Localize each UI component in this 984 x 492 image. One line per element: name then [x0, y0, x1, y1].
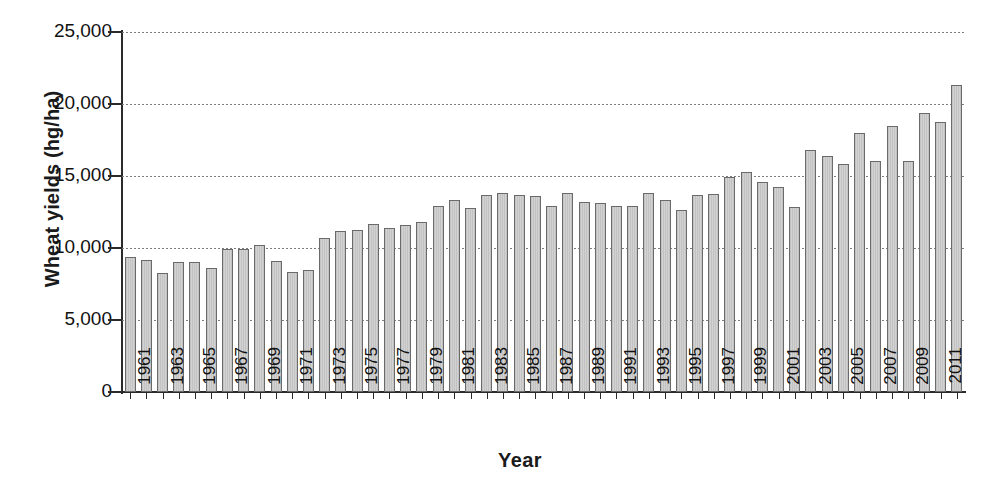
x-axis-tick-label: 1973	[332, 347, 347, 403]
y-axis-tick-label: 5,000	[64, 308, 112, 330]
bar	[870, 161, 881, 392]
x-axis-tick-label: 1999	[753, 347, 768, 403]
x-axis-tick-label: 1975	[364, 347, 379, 403]
bar	[157, 273, 168, 392]
x-axis-tick-label: 1963	[170, 347, 185, 403]
y-axis-tick-label: 20,000	[54, 92, 112, 114]
x-axis-tick-label: 2009	[915, 347, 930, 403]
x-axis-tick-label: 1991	[623, 347, 638, 403]
x-axis-tick-label: 1997	[721, 347, 736, 403]
bar	[189, 262, 200, 392]
x-axis-tick-label: 1989	[591, 347, 606, 403]
bar	[416, 222, 427, 392]
x-axis-tick-label: 1969	[267, 347, 282, 403]
bar	[708, 194, 719, 392]
y-axis-tick	[108, 103, 122, 105]
x-axis-tick-label: 1983	[494, 347, 509, 403]
bar	[805, 150, 816, 392]
x-axis-tick-label: 1985	[526, 347, 541, 403]
bar	[579, 202, 590, 392]
x-axis-tick-label: 1981	[461, 347, 476, 403]
y-axis-tick	[108, 175, 122, 177]
chart-figure: Wheat yields (hg/ha) 05,00010,00015,0002…	[0, 0, 984, 492]
x-axis-tick-label: 1971	[299, 347, 314, 403]
bar	[481, 195, 492, 392]
y-axis-tick-labels: 05,00010,00015,00020,00025,000	[0, 0, 112, 492]
y-axis-tick-label: 10,000	[54, 236, 112, 258]
x-axis-tick-label: 2011	[948, 347, 963, 403]
x-axis-tick-label: 1979	[429, 347, 444, 403]
x-axis-tick-label: 1967	[234, 347, 249, 403]
bar-series	[122, 32, 965, 392]
plot-area	[122, 32, 965, 392]
bar	[352, 230, 363, 392]
x-axis-tick-label: 2005	[850, 347, 865, 403]
x-axis-tick-label: 1987	[559, 347, 574, 403]
x-axis-tick-label: 1993	[656, 347, 671, 403]
x-axis-title: Year	[420, 449, 620, 472]
bar	[951, 85, 962, 392]
y-axis-tick	[108, 391, 122, 393]
y-axis-tick	[108, 319, 122, 321]
x-axis-tick-label: 1977	[396, 347, 411, 403]
bar	[643, 193, 654, 392]
y-axis-tick-label: 15,000	[54, 164, 112, 186]
x-axis-tick-label: 2001	[786, 347, 801, 403]
bar	[935, 122, 946, 392]
x-axis-tick-label: 1965	[202, 347, 217, 403]
x-axis-tick-label: 2007	[883, 347, 898, 403]
y-axis-tick	[108, 247, 122, 249]
bar	[546, 206, 557, 392]
bar	[773, 187, 784, 392]
bar	[125, 257, 136, 392]
x-axis-tick-label: 1995	[688, 347, 703, 403]
bar	[254, 245, 265, 392]
y-axis-tick	[108, 31, 122, 33]
x-axis-tick-label: 1961	[137, 347, 152, 403]
bar	[741, 172, 752, 392]
bar	[319, 238, 330, 392]
x-axis-tick-label: 2003	[818, 347, 833, 403]
y-axis-tick-label: 25,000	[54, 20, 112, 42]
